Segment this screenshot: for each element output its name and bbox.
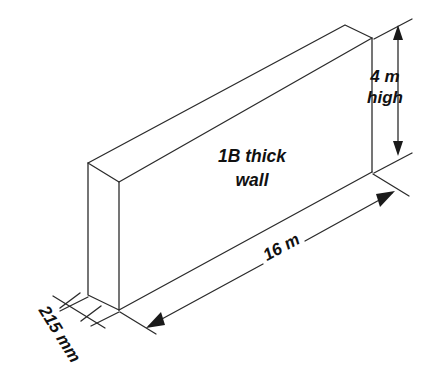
height-dimension-group: 4 m high (367, 19, 412, 173)
length-label: 16 m (260, 230, 303, 265)
length-arrow-left-icon (146, 312, 165, 328)
height-arrow-down-icon (393, 141, 403, 156)
wall-note-line1: 1B thick (218, 146, 287, 166)
length-extension-line-left (120, 312, 156, 334)
height-label-line1: 4 m (369, 67, 399, 86)
height-label-line2: high (367, 88, 403, 107)
height-extension-line-top (374, 19, 412, 39)
wall-left-end-face-fill (88, 163, 119, 310)
thickness-extension-line-front (91, 312, 119, 326)
wall-solid (88, 25, 372, 310)
length-arrow-right-icon (376, 191, 395, 207)
wall-dimension-diagram: 4 m high 16 m (0, 0, 435, 370)
height-extension-line-bottom (374, 153, 412, 173)
wall-drawing-canvas: 4 m high 16 m (0, 0, 435, 370)
height-arrow-up-icon (393, 25, 403, 40)
wall-note-line2: wall (235, 170, 269, 190)
